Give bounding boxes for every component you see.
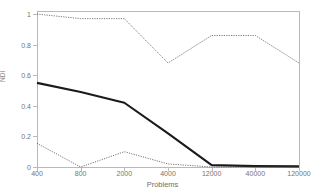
series-line xyxy=(37,83,299,167)
y-tick-label: 1 xyxy=(27,11,31,18)
x-tick-label: 4000 xyxy=(160,170,176,177)
y-tick-label-group: 00.20.40.60.81 xyxy=(0,11,37,168)
x-tick-label: 40000 xyxy=(246,170,265,177)
series-group xyxy=(37,11,300,168)
plot-area xyxy=(37,11,300,168)
x-tick-label: 800 xyxy=(75,170,87,177)
y-tick-label: 0.2 xyxy=(21,133,31,140)
x-tick-label: 12000 xyxy=(202,170,221,177)
series-line xyxy=(37,143,299,167)
y-tick-label: 0.4 xyxy=(21,102,31,109)
x-axis-title: Problems xyxy=(0,180,325,189)
x-tick-label: 2000 xyxy=(117,170,133,177)
x-tick-label: 400 xyxy=(31,170,43,177)
chart-figure: NDI 00.20.40.60.81 400800200040001200040… xyxy=(0,0,325,196)
series-line xyxy=(37,14,299,63)
y-tick-label: 0.6 xyxy=(21,72,31,79)
x-tick-label: 120000 xyxy=(287,170,310,177)
y-tick-label: 0.8 xyxy=(21,41,31,48)
